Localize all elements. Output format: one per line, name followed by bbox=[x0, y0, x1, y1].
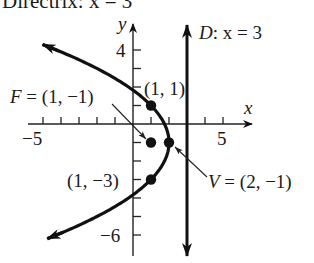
focus-coords: = (1, −1) bbox=[22, 86, 94, 107]
focus-dot bbox=[146, 137, 156, 147]
tick-label-x5: 5 bbox=[217, 129, 227, 148]
directrix-label: D: x = 3 bbox=[199, 23, 262, 42]
directrix-equation: : x = 3 bbox=[213, 22, 262, 43]
parabola-arrowhead bbox=[47, 232, 63, 238]
vertex-coords: = (2, −1) bbox=[220, 171, 292, 192]
point-label-top: (1, 1) bbox=[144, 79, 185, 98]
tick-label-y4: 4 bbox=[116, 41, 126, 60]
x-axis-label: x bbox=[244, 98, 252, 117]
parabola-arrowhead bbox=[43, 44, 59, 50]
focus-pointer-arrow bbox=[112, 104, 146, 139]
vertex-pointer-arrow bbox=[175, 147, 207, 177]
latus-top-dot bbox=[146, 100, 156, 110]
vertex-label: V = (2, −1) bbox=[208, 172, 292, 191]
tick-label-xneg5: −5 bbox=[22, 129, 42, 148]
focus-letter: F bbox=[10, 86, 22, 107]
plot-area bbox=[0, 0, 314, 263]
focus-label: F = (1, −1) bbox=[10, 87, 94, 106]
vertex-dot bbox=[164, 137, 174, 147]
tick-label-yneg6: −6 bbox=[100, 226, 120, 245]
directrix-letter: D bbox=[199, 22, 213, 43]
vertex-letter: V bbox=[208, 171, 220, 192]
latus-bottom-dot bbox=[146, 174, 156, 184]
y-axis-label: y bbox=[118, 14, 126, 33]
point-label-bottom: (1, −3) bbox=[67, 171, 119, 190]
parabola-figure: Directrix: x = 3 y x 4 −6 −5 5 D: x = 3 … bbox=[0, 0, 314, 263]
